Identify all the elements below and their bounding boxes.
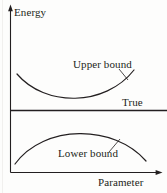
y-axis [8,5,13,173]
upper-bound-leader-line [119,69,128,80]
x-axis [11,170,163,175]
y-axis-arrow-icon [8,5,13,12]
lower-bound-label: Lower bound [58,147,118,159]
x-axis-arrow-icon [156,170,163,175]
upper-bound-label: Upper bound [73,58,132,70]
energy-vs-parameter-figure: Energy Parameter Upper bound True Lower … [0,0,167,193]
y-axis-label: Energy [14,6,46,18]
x-axis-label: Parameter [98,176,144,188]
upper-bound-curve [17,70,134,98]
true-label: True [122,96,143,108]
